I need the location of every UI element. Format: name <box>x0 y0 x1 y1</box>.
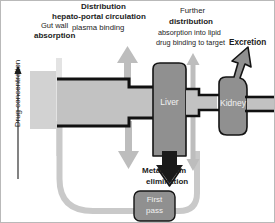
diagram-canvas: Drug concentration Gut wall absorption D… <box>0 0 275 223</box>
first-pass-return-tube-left <box>60 121 135 211</box>
further-distribution-label-line2: distribution <box>169 18 213 27</box>
gut-block <box>30 71 60 129</box>
gut-wall-label-line1: Gut wall <box>41 22 68 30</box>
distribution-label-line1: Distribution <box>81 3 126 12</box>
first-pass-label-line1: First <box>134 196 175 204</box>
liver-kidney-pipe <box>186 89 217 116</box>
metabolism-label-line1: Metabolism <box>142 167 186 176</box>
gut-wall-label-line2: absorption <box>34 32 75 41</box>
metabolism-label-line2: elimination <box>146 178 188 187</box>
excretion-label: Excretion <box>229 39 266 48</box>
further-distribution-label-line3: absorption into lipid <box>158 29 221 37</box>
first-pass-label-line2: pass <box>134 207 175 215</box>
distribution-label-line3: plasma binding <box>72 24 124 32</box>
liver-label: Liver <box>153 98 186 107</box>
kidney-label: Kidney <box>215 99 251 108</box>
kidney-shape <box>219 47 251 135</box>
further-distribution-label-line4: drug binding to target <box>156 39 225 47</box>
hepatic-down-arrow <box>118 121 139 169</box>
further-distribution-label-line1: Further <box>180 7 205 15</box>
drug-concentration-axis-label: Drug concentration <box>13 54 22 134</box>
distribution-label-line2: hepato-portal circulation <box>52 13 146 22</box>
renal-outflow-pipe <box>247 97 275 111</box>
